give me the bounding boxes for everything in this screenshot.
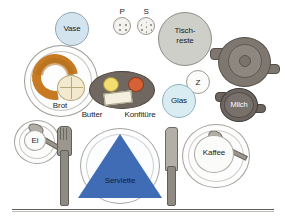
- roll-score: [71, 77, 72, 87]
- napkin-triangle-icon[interactable]: [78, 134, 162, 198]
- glass-shape[interactable]: [162, 84, 196, 118]
- knife-handle-icon[interactable]: [167, 166, 176, 206]
- jam-label: Konfitüre: [116, 110, 164, 119]
- salt-shaker[interactable]: [137, 17, 155, 35]
- leftovers-bowl[interactable]: [158, 12, 212, 66]
- pepper-shaker[interactable]: [113, 17, 131, 35]
- butter-icon: [103, 77, 119, 92]
- fork-handle-icon[interactable]: [60, 150, 69, 206]
- pepper-label: P: [113, 7, 131, 16]
- salt-label: S: [137, 7, 155, 16]
- shaker-hole: [125, 24, 127, 26]
- fork-tine: [66, 128, 68, 140]
- milk-jug-inner: [224, 92, 254, 118]
- table-edge-line: [12, 209, 274, 210]
- coffee-cup[interactable]: [194, 135, 234, 173]
- shaker-hole: [141, 29, 143, 31]
- shaker-hole: [146, 26, 148, 28]
- shaker-hole: [141, 24, 143, 26]
- knife-blade-icon[interactable]: [165, 127, 178, 171]
- shaker-hole: [151, 29, 153, 31]
- shaker-hole: [125, 29, 127, 31]
- vase-shape[interactable]: [55, 12, 89, 46]
- teapot-knob: [239, 55, 251, 67]
- shaker-hole: [146, 31, 148, 33]
- fork-tine: [60, 128, 62, 140]
- fork-tine: [63, 128, 65, 140]
- roll-score: [71, 88, 72, 99]
- egg-cup[interactable]: [24, 130, 46, 151]
- shaker-hole: [150, 24, 152, 26]
- table-edge-shadow: [12, 211, 274, 212]
- bread-roll-icon: [57, 75, 85, 101]
- shaker-hole: [119, 29, 121, 31]
- shaker-hole: [146, 22, 148, 24]
- shaker-hole: [119, 24, 121, 26]
- breakfast-table-diagram: Vase P S Tisch- reste Z Milch: [0, 0, 285, 220]
